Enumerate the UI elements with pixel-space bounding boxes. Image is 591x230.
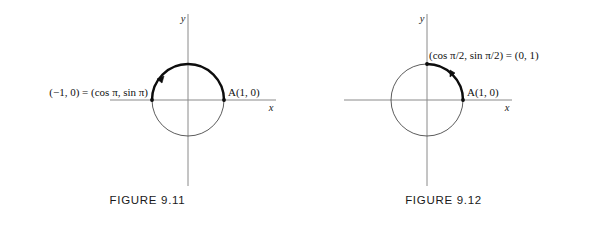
x-axis-label: x (268, 102, 274, 113)
figure-9-11-caption: FIGURE 9.11 (0, 194, 295, 206)
y-axis-label: y (180, 13, 186, 24)
point-a-marker (222, 98, 226, 102)
figure-9-12-diagram: y x (cos π/2, sin π/2) = (0, 1) A(1, 0) (296, 0, 591, 196)
point-minus-one-marker (150, 98, 154, 102)
figure-9-11-diagram: y x (−1, 0) = (cos π, sin π) A(1, 0) (0, 0, 295, 196)
figure-9-12-pane: y x (cos π/2, sin π/2) = (0, 1) A(1, 0) … (296, 0, 591, 230)
point-label-a: A(1, 0) (467, 86, 499, 99)
point-label-top: (cos π/2, sin π/2) = (0, 1) (429, 49, 539, 62)
point-a-marker (461, 98, 465, 102)
point-label-left: (−1, 0) = (cos π, sin π) (49, 86, 148, 99)
traced-arc (427, 64, 463, 100)
y-axis-label: y (419, 13, 425, 24)
figure-9-12-caption: FIGURE 9.12 (296, 194, 591, 206)
x-axis-label: x (504, 102, 510, 113)
point-label-a: A(1, 0) (228, 86, 260, 99)
point-zero-one-marker (425, 62, 429, 66)
figure-9-11-pane: y x (−1, 0) = (cos π, sin π) A(1, 0) FIG… (0, 0, 295, 230)
